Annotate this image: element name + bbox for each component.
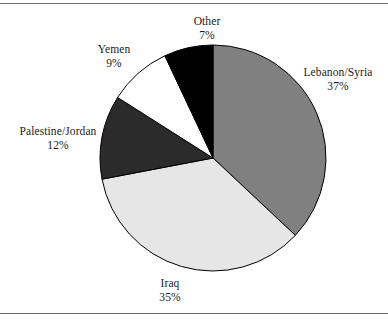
slice-label-yemen: Yemen 9% [64, 42, 164, 70]
slice-label-lebanon-syria-value: 37% [288, 79, 388, 93]
pie-chart: Other 7% Yemen 9% Palestine/Jordan 12% L… [0, 4, 388, 313]
slice-label-yemen-value: 9% [64, 56, 164, 70]
slice-label-other-value: 7% [152, 28, 262, 42]
slice-label-palestine-jordan-name: Palestine/Jordan [0, 124, 116, 138]
slice-label-iraq: Iraq 35% [120, 276, 220, 304]
pie-chart-svg [0, 4, 388, 313]
slice-label-other: Other 7% [152, 14, 262, 42]
slice-label-iraq-value: 35% [120, 290, 220, 304]
slice-label-iraq-name: Iraq [120, 276, 220, 290]
slice-label-other-name: Other [152, 14, 262, 28]
slice-label-palestine-jordan-value: 12% [0, 138, 116, 152]
slice-label-lebanon-syria: Lebanon/Syria 37% [288, 65, 388, 93]
bottom-divider-rule [0, 313, 388, 314]
slice-label-yemen-name: Yemen [64, 42, 164, 56]
slice-label-palestine-jordan: Palestine/Jordan 12% [0, 124, 116, 152]
slice-label-lebanon-syria-name: Lebanon/Syria [288, 65, 388, 79]
figure-page: Other 7% Yemen 9% Palestine/Jordan 12% L… [0, 0, 388, 321]
